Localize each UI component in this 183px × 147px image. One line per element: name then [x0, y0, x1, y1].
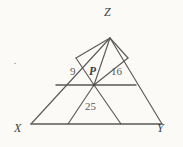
region-label-bottom-25: 25 [85, 101, 96, 112]
vertex-label-Y: Y [157, 122, 164, 134]
upper-left-chord-line [76, 38, 110, 58]
point-P-marker [93, 84, 96, 87]
upper-right-chord-line [110, 38, 128, 58]
scan-speck [14, 63, 16, 64]
geometry-figure: Z X Y P 9 16 25 [0, 0, 183, 147]
vertex-label-X: X [14, 122, 21, 134]
vertex-label-Z: Z [104, 6, 111, 18]
lower-right-P-line [94, 85, 121, 124]
side-ZY-line [110, 38, 162, 124]
region-label-left-9: 9 [70, 66, 76, 77]
interior-point-label-P: P [89, 66, 96, 78]
region-label-right-16: 16 [111, 66, 122, 77]
